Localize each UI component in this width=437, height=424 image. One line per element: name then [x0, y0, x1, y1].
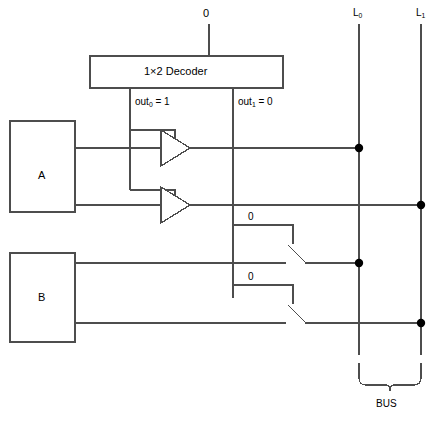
junction-dot-l1-buffer2	[417, 201, 425, 209]
bus-l1-prefix: L	[416, 7, 422, 18]
bus-bracket	[359, 363, 421, 391]
out0-suffix: = 1	[153, 96, 170, 107]
decoder-label: 1×2 Decoder	[144, 66, 207, 77]
switch-lower-blade	[288, 305, 307, 324]
bus-l0-prefix: L	[353, 7, 359, 18]
circuit-diagram: 0 1×2 Decoder out0 = 1 out1 = 0 A B 0 0 …	[0, 0, 437, 424]
out1-prefix: out	[238, 96, 252, 107]
junction-dot-l1-switch-lower	[417, 319, 425, 327]
switch-upper-control-wire	[233, 225, 293, 244]
bus-l0-label: L0	[353, 8, 362, 18]
decoder-out0-label: out0 = 1	[135, 97, 170, 107]
decoder-out1-label: out1 = 0	[238, 97, 273, 107]
out0-subscript: 0	[149, 101, 153, 108]
bus-l0-subscript: 0	[359, 12, 363, 19]
junction-dots	[355, 144, 425, 327]
out1-suffix: = 0	[256, 96, 273, 107]
junction-dot-l0-buffer1	[355, 144, 363, 152]
switch-lower-control-value: 0	[248, 272, 254, 282]
switch-upper-control-value: 0	[248, 212, 254, 222]
bus-bracket-label: BUS	[376, 399, 397, 409]
switch-upper-blade	[288, 245, 307, 264]
block-b-label: B	[38, 292, 45, 303]
switch-lower-control-wire	[233, 285, 293, 304]
decoder-input-value: 0	[203, 8, 209, 19]
circuit-schematic-svg	[0, 0, 437, 424]
block-a-box	[10, 121, 75, 212]
out1-subscript: 1	[252, 101, 256, 108]
bus-l1-subscript: 1	[422, 12, 426, 19]
bus-l1-label: L1	[416, 8, 425, 18]
out0-prefix: out	[135, 96, 149, 107]
block-a-label: A	[38, 170, 45, 181]
junction-dot-l0-switch-upper	[355, 259, 363, 267]
